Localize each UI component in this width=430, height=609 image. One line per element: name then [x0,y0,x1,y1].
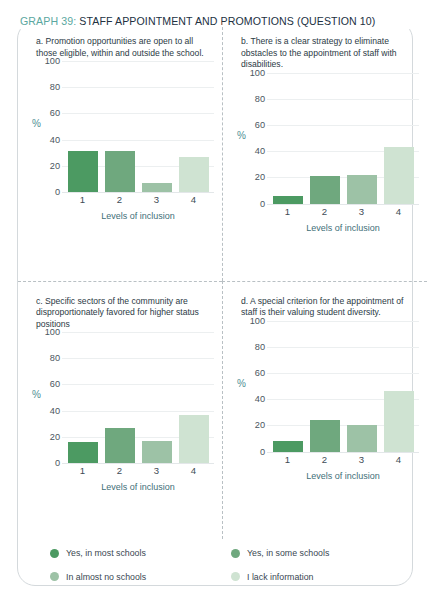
y-axis-tick-label: 80 [50,353,60,363]
legend-color-swatch-icon [231,549,240,558]
bar-c-1[interactable] [68,442,98,463]
chart-panel-a: a. Promotion opportunities are open to a… [18,22,222,281]
y-axis: 100806040200 [237,321,267,452]
y-axis-tick-label: 100 [45,56,60,66]
y-axis-tick-label: 0 [260,199,265,209]
bar-d-4[interactable] [384,391,414,451]
bar-c-3[interactable] [142,441,172,463]
y-axis-tick-label: 40 [255,146,265,156]
x-axis-title: Levels of inclusion [64,482,212,492]
x-axis-tick-label: 3 [347,206,377,220]
legend-item-label: In almost no schools [66,572,146,582]
x-axis: 1234 [269,206,417,220]
x-axis-tick-label: 4 [179,465,209,479]
chart-c-plot: %1008060402001234Levels of inclusion [32,332,214,487]
charts-grid: a. Promotion opportunities are open to a… [18,22,412,539]
bar-d-2[interactable] [310,420,340,451]
y-axis: 100806040200 [32,332,62,463]
bar-group [64,61,212,192]
x-axis-tick-label: 3 [142,465,172,479]
legend-item[interactable]: I lack information [231,569,412,586]
y-axis-tick-label: 80 [255,94,265,104]
x-axis: 1234 [269,454,417,468]
x-axis-tick-label: 4 [179,194,209,208]
legend-item[interactable]: Yes, in some schools [231,545,412,562]
bar-b-3[interactable] [347,175,377,204]
chart-panel-d: d. A special criterion for the appointme… [222,281,427,540]
y-axis-tick-label: 40 [50,135,60,145]
bar-group [269,73,417,204]
bar-d-1[interactable] [273,441,303,451]
bar-d-3[interactable] [347,425,377,451]
chart-panel-b: b. There is a clear strategy to eliminat… [222,22,427,281]
legend-color-swatch-icon [50,572,59,581]
chart-b-question: b. There is a clear strategy to eliminat… [241,36,419,71]
legend-item-label: Yes, in most schools [66,548,146,558]
bar-group [269,321,417,452]
bar-a-2[interactable] [105,151,135,192]
y-axis-tick-label: 0 [55,458,60,468]
y-axis-tick-label: 80 [50,82,60,92]
y-axis: 100806040200 [32,61,62,192]
chart-d-question: d. A special criterion for the appointme… [241,296,419,319]
legend-item[interactable]: In almost no schools [50,569,231,586]
bar-c-4[interactable] [179,415,209,463]
y-axis-tick-label: 40 [255,394,265,404]
y-axis-tick-label: 60 [255,368,265,378]
bar-a-1[interactable] [68,151,98,192]
x-axis-tick-label: 3 [142,194,172,208]
bar-b-1[interactable] [273,196,303,204]
legend-color-swatch-icon [231,572,240,581]
y-axis: 100806040200 [237,73,267,204]
y-axis-tick-label: 20 [50,432,60,442]
chart-a-question: a. Promotion opportunities are open to a… [36,36,214,59]
bar-c-2[interactable] [105,428,135,463]
gridline [62,463,214,464]
x-axis: 1234 [64,465,212,479]
gridline [267,452,419,453]
graph-page: GRAPH 39: STAFF APPOINTMENT AND PROMOTIO… [0,0,430,609]
y-axis-tick-label: 40 [50,406,60,416]
y-axis-tick-label: 100 [250,68,265,78]
legend-item-label: Yes, in some schools [247,548,329,558]
gridline [62,192,214,193]
gridline [267,204,419,205]
x-axis-tick-label: 3 [347,454,377,468]
bar-group [64,332,212,463]
bar-a-4[interactable] [179,157,209,192]
x-axis-tick-label: 2 [310,206,340,220]
x-axis-tick-label: 4 [384,206,414,220]
y-axis-tick-label: 20 [255,172,265,182]
x-axis-tick-label: 4 [384,454,414,468]
x-axis-title: Levels of inclusion [64,211,212,221]
y-axis-tick-label: 60 [50,379,60,389]
x-axis: 1234 [64,194,212,208]
chart-c-question: c. Specific sectors of the community are… [36,296,214,331]
x-axis-tick-label: 2 [310,454,340,468]
chart-panel-c: c. Specific sectors of the community are… [18,281,222,540]
x-axis-tick-label: 2 [105,194,135,208]
chart-d-plot: %1008060402001234Levels of inclusion [237,321,419,476]
y-axis-tick-label: 20 [255,420,265,430]
y-axis-tick-label: 100 [250,316,265,326]
y-axis-tick-label: 60 [255,120,265,130]
y-axis-tick-label: 0 [55,187,60,197]
y-axis-tick-label: 80 [255,342,265,352]
x-axis-title: Levels of inclusion [269,223,417,233]
legend-item-label: I lack information [247,572,314,582]
chart-a-plot: %1008060402001234Levels of inclusion [32,61,214,216]
bar-b-2[interactable] [310,176,340,204]
legend: Yes, in most schoolsYes, in some schools… [18,545,412,585]
x-axis-tick-label: 2 [105,465,135,479]
legend-item[interactable]: Yes, in most schools [50,545,231,562]
legend-color-swatch-icon [50,549,59,558]
x-axis-tick-label: 1 [273,206,303,220]
y-axis-tick-label: 60 [50,108,60,118]
x-axis-title: Levels of inclusion [269,471,417,481]
bar-a-3[interactable] [142,183,172,192]
y-axis-tick-label: 0 [260,447,265,457]
x-axis-tick-label: 1 [68,194,98,208]
bar-b-4[interactable] [384,147,414,203]
x-axis-tick-label: 1 [68,465,98,479]
x-axis-tick-label: 1 [273,454,303,468]
